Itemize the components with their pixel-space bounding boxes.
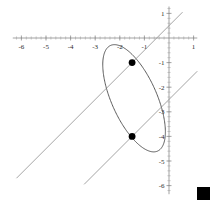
tangent-line-lower xyxy=(84,71,197,184)
lower-tangency-point xyxy=(129,133,136,140)
plot-canvas: -6-5-4-3-2-11 1-1-2-3-4-5-6 xyxy=(0,0,214,206)
y-tick-label: -2 xyxy=(159,84,165,92)
x-tick-label: -6 xyxy=(18,43,24,51)
x-tick-label: -4 xyxy=(68,43,74,51)
x-tick-label: -3 xyxy=(92,43,98,51)
upper-tangency-point xyxy=(129,59,136,66)
x-tick-label: -1 xyxy=(141,43,147,51)
y-tick-label: -4 xyxy=(159,133,165,141)
y-tick-label: -6 xyxy=(159,182,165,190)
corner-square-marker xyxy=(197,187,210,200)
points-group xyxy=(129,59,136,140)
y-tick-label: -5 xyxy=(159,158,165,166)
plot-figure: -6-5-4-3-2-11 1-1-2-3-4-5-6 xyxy=(0,0,214,206)
y-tick-label: -1 xyxy=(159,59,165,67)
y-tick-label: 1 xyxy=(161,10,165,18)
x-tick-label: 1 xyxy=(192,43,196,51)
x-tick-label: -5 xyxy=(43,43,49,51)
axes-group: -6-5-4-3-2-11 1-1-2-3-4-5-6 xyxy=(13,7,198,195)
